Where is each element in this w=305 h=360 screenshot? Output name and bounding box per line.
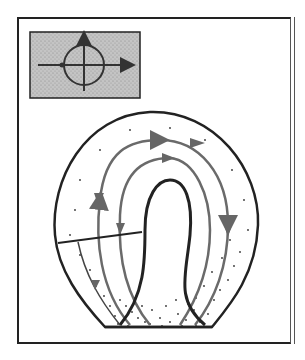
axis-point-icon bbox=[60, 63, 65, 68]
flow-diagram bbox=[0, 0, 305, 360]
inset-axes bbox=[30, 32, 140, 98]
